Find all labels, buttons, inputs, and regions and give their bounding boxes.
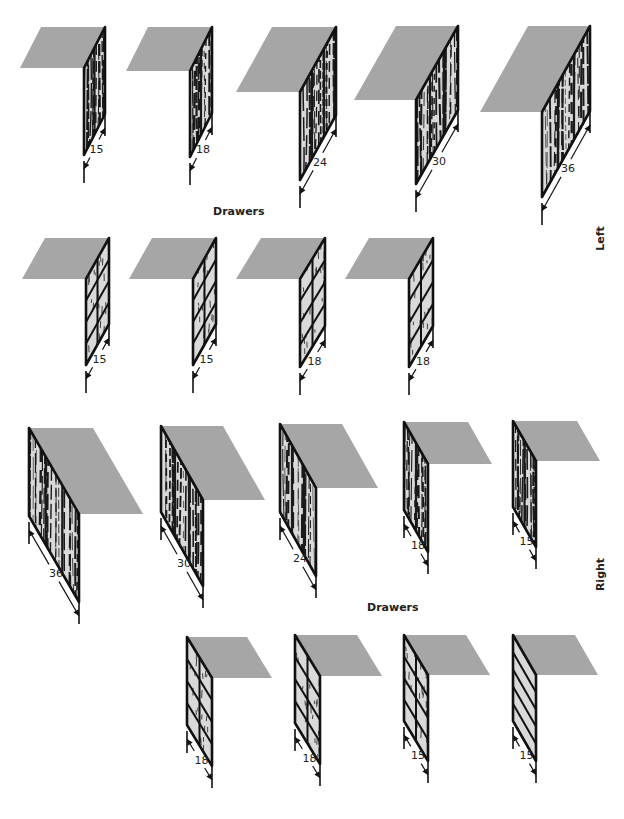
left-doors-unit-1: 15: [20, 27, 105, 183]
left-doors-unit-3: 24: [236, 27, 336, 208]
cabinet-diagram: 151824303615151818363024181518181515: [0, 0, 624, 819]
dimension-label: 18: [308, 355, 322, 368]
dimension-label: 30: [432, 155, 446, 168]
dimension-label: 15: [200, 353, 214, 366]
dimension-label: 15: [411, 749, 425, 762]
dimension-label: 15: [520, 535, 534, 548]
left-drawers-unit-3: 18: [236, 238, 325, 395]
left-side-label: Left: [594, 226, 607, 251]
right-drawers-unit-2: 18: [295, 635, 382, 786]
left-doors-unit-4: 30: [354, 26, 458, 212]
right-doors-unit-5: 15: [513, 421, 600, 569]
left-doors-unit-2: 18: [126, 27, 212, 185]
left-drawers-unit-4: 18: [345, 238, 433, 395]
dimension-label: 18: [411, 539, 425, 552]
dimension-label: 18: [303, 752, 317, 765]
right-drawers-unit-4: 15: [513, 635, 598, 783]
left-drawers-unit-1: 15: [22, 238, 109, 393]
right-drawers-unit-1: 18: [187, 637, 272, 788]
left-doors-unit-5: 36: [480, 26, 590, 225]
dimension-label: 36: [49, 567, 63, 580]
dimension-label: 30: [177, 557, 191, 570]
drawers-label-right-section: Drawers: [367, 601, 419, 614]
dimension-label: 24: [313, 156, 327, 169]
dimension-label: 15: [93, 353, 107, 366]
dimension-label: 18: [416, 355, 430, 368]
right-doors-unit-1: 36: [29, 428, 143, 624]
right-doors-unit-4: 18: [404, 422, 492, 574]
right-drawers-unit-3: 15: [404, 635, 490, 783]
right-doors-unit-3: 24: [280, 424, 378, 598]
left-drawers-unit-2: 15: [129, 238, 216, 393]
right-side-label: Right: [594, 558, 607, 591]
dimension-label: 18: [196, 143, 210, 156]
dimension-label: 15: [520, 749, 534, 762]
dimension-label: 15: [90, 143, 104, 156]
dimension-label: 18: [195, 754, 209, 767]
drawers-label-left-section: Drawers: [213, 205, 265, 218]
dimension-label: 36: [561, 162, 575, 175]
dimension-label: 24: [293, 552, 307, 565]
right-doors-unit-2: 30: [160, 426, 265, 608]
